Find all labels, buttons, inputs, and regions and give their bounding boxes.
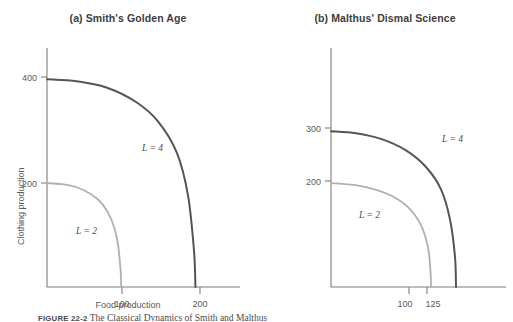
panel-b-curve-L2 — [331, 183, 431, 287]
panel-a-label-L2: L = 2 — [75, 226, 97, 236]
panel-b-xtick-label-100: 100 — [397, 299, 412, 309]
figure-caption: FIGURE 22-2 The Classical Dynamics of Sm… — [38, 313, 267, 322]
panel-a-ytick-label-400: 400 — [22, 73, 37, 83]
panel-b-curve-L4 — [331, 131, 456, 287]
panel-b-xtick-label-125: 125 — [425, 299, 440, 309]
figure-caption-label: FIGURE 22-2 — [38, 314, 87, 322]
panel-a-curve-L4 — [47, 79, 195, 287]
panel-a-plot: 400 200 100 200 L = 4 L = 2 — [14, 38, 242, 300]
panel-b-title: (b) Malthus' Dismal Science — [257, 12, 513, 24]
panel-b: (b) Malthus' Dismal Science 300 200 100 … — [257, 0, 513, 310]
panel-a-svg: 400 200 100 200 L = 4 L = 2 — [14, 38, 242, 300]
panel-a: (a) Smith's Golden Age 400 200 100 200 — [0, 0, 256, 310]
panel-a-ylabel: Clothing production — [16, 167, 26, 245]
panel-b-svg: 300 200 100 125 L = 4 L = 2 — [275, 38, 507, 300]
panel-a-title: (a) Smith's Golden Age — [0, 12, 256, 24]
panel-a-xlabel: Food production — [0, 300, 256, 310]
panel-b-label-L2: L = 2 — [358, 210, 380, 220]
panel-b-plot: 300 200 100 125 L = 4 L = 2 — [275, 38, 507, 300]
panel-b-label-L4: L = 4 — [441, 134, 463, 144]
panel-a-label-L4: L = 4 — [141, 143, 163, 153]
figure-caption-text: The Classical Dynamics of Smith and Malt… — [90, 313, 267, 322]
panel-b-ytick-label-300: 300 — [306, 124, 321, 134]
figure-container: (a) Smith's Golden Age 400 200 100 200 — [0, 0, 513, 322]
panel-b-ytick-label-200: 200 — [306, 177, 321, 187]
